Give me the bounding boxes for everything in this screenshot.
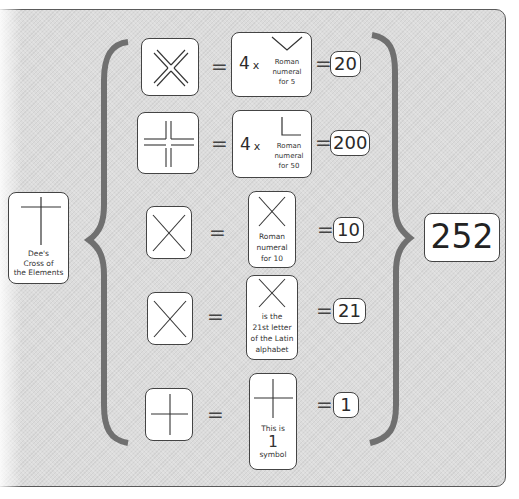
row-5-value-box: This is 1 symbol — [249, 373, 297, 470]
plus-cross-icon — [146, 389, 194, 442]
row-4-value-box: is the 21st letter of the Latin alphabet — [246, 275, 298, 360]
label-line: the Elements — [9, 268, 68, 278]
equals-sign: = — [317, 219, 334, 239]
row-2-symbol-box — [137, 112, 199, 174]
equals-sign: = — [211, 133, 228, 153]
row-5-symbol-box — [145, 388, 193, 441]
dees-cross-label: Dee's Cross of the Elements — [9, 249, 68, 278]
roman-v-glyph — [268, 35, 308, 53]
dees-cross-icon — [9, 193, 70, 253]
equals-sign: = — [207, 306, 224, 326]
row-1-value-box: 4x Roman numeral for 5 — [231, 32, 312, 97]
label-line: 21st letter — [247, 322, 297, 333]
label-line: for 50 — [267, 161, 311, 171]
row-4-symbol-box — [147, 292, 193, 345]
multiplier-number: 4 — [239, 53, 250, 73]
row-1-result: 20 — [330, 51, 361, 77]
row-1-symbol-box — [141, 38, 199, 96]
multiplier: 4x — [239, 53, 259, 73]
left-brace — [89, 42, 128, 443]
roman-l-glyph — [269, 115, 309, 139]
row-2-value-box: 4x Roman numeral for 50 — [232, 110, 312, 178]
row-2-value-label: Roman numeral for 50 — [267, 141, 311, 171]
single-cross-glyph — [250, 374, 296, 420]
row-4-value-label: is the 21st letter of the Latin alphabet — [247, 311, 297, 355]
row-5-result: 1 — [333, 392, 359, 418]
row-3-value-label: Roman numeral for 10 — [249, 231, 295, 264]
label-line: Roman — [249, 231, 295, 242]
equals-sign: = — [207, 404, 224, 424]
label-line: numeral — [266, 67, 308, 77]
times-sign: x — [253, 59, 260, 72]
times-sign: x — [254, 140, 261, 153]
row-4-result: 21 — [333, 298, 366, 324]
row-2-result: 200 — [330, 130, 370, 156]
double-x-cross-icon — [142, 39, 200, 97]
label-line: Cross of — [9, 259, 68, 269]
x-cross-icon — [148, 293, 194, 346]
equals-sign: = — [211, 56, 228, 76]
dees-cross-box: Dee's Cross of the Elements — [8, 192, 69, 284]
label-line: Dee's — [9, 249, 68, 259]
label-line: for 10 — [249, 253, 295, 264]
roman-x-glyph — [249, 194, 295, 230]
label-line: Roman — [266, 57, 308, 67]
label-line: symbol — [250, 450, 296, 460]
latin-x-glyph — [247, 276, 297, 310]
row-3-symbol-box — [146, 206, 192, 259]
total-box: 252 — [424, 213, 500, 262]
row-5-value-label: This is 1 symbol — [250, 424, 296, 460]
equals-sign: = — [316, 300, 333, 320]
label-line: is the — [247, 311, 297, 322]
row-3-result: 10 — [333, 217, 364, 243]
label-line-number: 1 — [250, 434, 296, 450]
equals-sign: = — [316, 394, 333, 414]
right-brace — [370, 35, 410, 443]
equals-sign: = — [209, 222, 226, 242]
label-line: for 5 — [266, 77, 308, 87]
row-3-value-box: Roman numeral for 10 — [248, 191, 296, 268]
label-line: alphabet — [247, 344, 297, 355]
x-cross-icon — [147, 207, 193, 260]
label-line: numeral — [249, 242, 295, 253]
double-line-cross-icon — [138, 113, 200, 175]
row-1-value-label: Roman numeral for 5 — [266, 57, 308, 87]
label-line: numeral — [267, 151, 311, 161]
label-line: of the Latin — [247, 333, 297, 344]
label-line: Roman — [267, 141, 311, 151]
multiplier: 4x — [240, 134, 260, 154]
multiplier-number: 4 — [240, 134, 251, 154]
